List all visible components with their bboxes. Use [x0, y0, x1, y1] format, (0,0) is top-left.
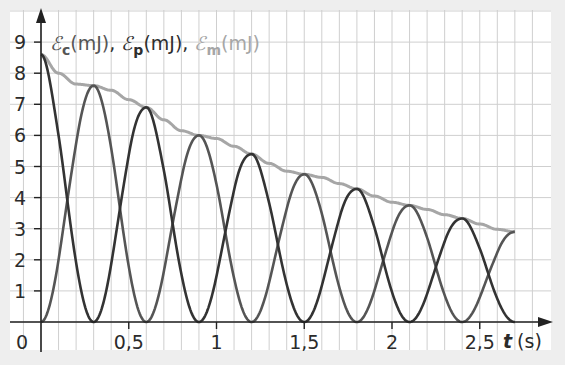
y-tick-label: 9	[14, 31, 26, 53]
y-tick-label: 5	[14, 156, 26, 178]
y-tick-label: 1	[14, 280, 26, 302]
plot-area	[10, 10, 551, 350]
y-tick-label: 3	[14, 218, 26, 240]
y-tick-label: 6	[14, 124, 26, 146]
y-tick-label: 8	[14, 62, 26, 84]
y-tick-label: 2	[14, 249, 26, 271]
energy-chart: 12345678900,511,522,5 ℰc(mJ), ℰp(mJ), ℰm…	[0, 0, 565, 365]
x-tick-label: 1	[210, 331, 222, 353]
x-axis-title: t(s)	[503, 330, 542, 352]
x-tick-label: 2,5	[465, 331, 495, 353]
x-tick-label: 2	[386, 331, 398, 353]
x-tick-label: 0	[16, 331, 28, 353]
x-tick-label: 1,5	[289, 331, 319, 353]
y-tick-label: 4	[14, 187, 26, 209]
x-tick-label: 0,5	[114, 331, 144, 353]
y-tick-label: 7	[14, 93, 26, 115]
